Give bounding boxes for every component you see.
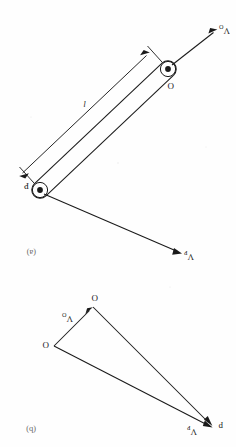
vector-relative-onode-to-p <box>93 307 212 426</box>
label-point-O-node: O <box>91 293 98 303</box>
pivot-P-dot <box>37 187 43 193</box>
vector-vp-panel-a-shaft <box>44 194 178 252</box>
label-vp-panel-a-symbol: V <box>187 252 194 262</box>
label-point-O-pole: O <box>42 340 49 350</box>
label-vo-panel-b-symbol: V <box>66 314 73 324</box>
label-point-P-panel-a: P <box>24 181 29 191</box>
vector-vp-pole-to-p <box>54 346 213 428</box>
label-vp-panel-b-symbol: V <box>190 427 197 437</box>
label-point-O-panel-a: O <box>167 81 174 91</box>
label-point-p-lower-text: p <box>218 422 223 432</box>
label-vp-panel-a-subscript: P <box>184 250 188 257</box>
panel-b-group: p V P O O V O <box>26 293 223 437</box>
figure-canvas: p V P O O V O <box>0 0 236 447</box>
vector-vp-panel-a: V P <box>44 194 194 262</box>
vector-relative-shaft <box>93 307 209 423</box>
panel-a-group: V P V O <box>19 24 230 262</box>
label-vp-panel-b-subscript: P <box>187 425 191 432</box>
dimension-extension-O <box>148 46 163 63</box>
dimension-length-l: l <box>19 46 162 184</box>
scan-speckle <box>30 116 206 287</box>
link-body <box>32 61 176 198</box>
vector-vo-panel-a-shaft <box>172 33 214 66</box>
link-edge-upper <box>46 75 174 196</box>
dimension-arrowhead-O <box>140 50 150 55</box>
vector-vp-shaft <box>54 346 209 426</box>
vector-vo-pole-to-onode <box>54 307 93 346</box>
label-vo-panel-b: V O <box>62 312 73 324</box>
label-vo-panel-b-subscript: O <box>62 312 67 319</box>
label-point-O-node-text: O <box>91 293 98 303</box>
figure-root: p V P O O V O <box>0 0 236 447</box>
dimension-shaft <box>23 56 147 174</box>
link-edge-lower <box>34 63 162 184</box>
panel-b-label: (b) <box>26 425 36 435</box>
label-vo-panel-a-symbol: V <box>223 26 230 36</box>
vector-vo-panel-a: V O <box>172 24 230 65</box>
label-vp-panel-b: V P <box>187 425 197 437</box>
pivot-P <box>32 182 47 197</box>
panel-a-label: (a) <box>26 248 36 258</box>
label-point-p-lower: p <box>218 422 223 432</box>
label-vo-panel-a-subscript: O <box>219 24 224 31</box>
label-point-O-pole-text: O <box>42 340 49 350</box>
dimension-label-l: l <box>83 99 86 109</box>
vector-vp-panel-a-arrowhead <box>172 248 182 255</box>
pivot-O-dot <box>165 66 171 72</box>
rotated-scan-page: p V P O O V O <box>0 0 236 447</box>
